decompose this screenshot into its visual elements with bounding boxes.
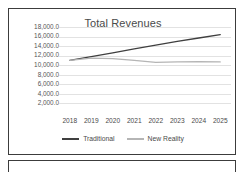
x-axis-tick-label: 2024 [188,116,210,128]
y-axis-tick-label: 18,000.0 [11,24,59,30]
y-axis-tick-label: 6,000.0 [11,81,59,87]
x-axis-tick-labels: 20182019202020212022202320242025 [59,116,231,128]
chart-legend: TraditionalNew Reality [9,135,237,143]
legend-item[interactable]: New Reality [127,135,184,143]
series-line-traditional [70,35,221,61]
y-axis-tick-label: 14,000.0 [11,43,59,49]
y-axis-tick-label: 8,000.0 [11,72,59,78]
x-axis-tick-label: 2021 [124,116,146,128]
y-axis-tick-label: 16,000.0 [11,33,59,39]
x-axis-tick-label: 2019 [81,116,103,128]
series-line-new-reality [70,58,221,62]
x-axis-tick-label: 2023 [167,116,189,128]
next-panel-frame [8,160,236,165]
legend-line-icon [127,138,144,140]
y-axis-tick-labels: 2,000.04,000.06,000.08,000.010,000.012,0… [11,27,59,113]
series-lines [59,27,231,113]
chart-container: Total Revenues 2,000.04,000.06,000.08,00… [8,8,236,155]
legend-label: Traditional [83,135,114,143]
x-axis-tick-label: 2018 [59,116,81,128]
legend-item[interactable]: Traditional [62,135,114,143]
y-axis-tick-label: 12,000.0 [11,52,59,58]
y-axis-tick-label: 4,000.0 [11,91,59,97]
legend-line-icon [62,138,79,140]
x-axis-tick-label: 2022 [145,116,167,128]
y-axis-tick-label: 10,000.0 [11,62,59,68]
y-axis-tick-label: 2,000.0 [11,100,59,106]
x-axis-tick-label: 2020 [102,116,124,128]
legend-label: New Reality [148,135,184,143]
x-axis-tick-label: 2025 [210,116,232,128]
plot-area: 2,000.04,000.06,000.08,000.010,000.012,0… [9,9,237,156]
